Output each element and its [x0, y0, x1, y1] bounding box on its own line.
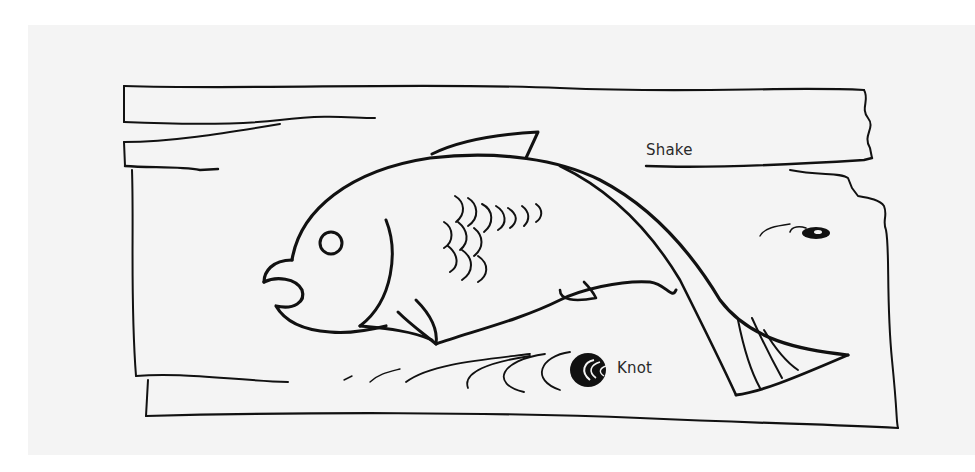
fish-back — [292, 155, 848, 355]
plank-top-right-edge — [864, 90, 872, 158]
pectoral-fin — [398, 300, 436, 344]
pelvic-fin — [560, 282, 596, 300]
knot-icon — [570, 353, 606, 387]
plank-right-edge — [790, 170, 898, 428]
wood-grain — [344, 352, 570, 392]
plank-crack — [125, 166, 218, 170]
plank-lower-split — [136, 375, 288, 382]
plank-left-edge — [132, 170, 136, 376]
fish-scales — [444, 196, 541, 282]
shake-label: Shake — [646, 141, 693, 159]
plank-top-edge — [124, 86, 864, 91]
fish-belly — [436, 282, 676, 344]
fish-eye — [320, 232, 342, 254]
plank-split-line — [124, 117, 375, 124]
plank-second-board-edge — [124, 124, 280, 142]
fish-mouth — [264, 279, 386, 333]
fish-on-plank-illustration — [0, 0, 975, 472]
plank-left-end-middle — [124, 142, 125, 166]
shake-line — [646, 158, 872, 167]
plank-left-end-bottom — [146, 380, 148, 416]
knot-label: Knot — [617, 359, 652, 377]
small-knot-icon — [760, 224, 830, 239]
gill-line — [360, 220, 392, 326]
plank-bottom-edge — [146, 413, 898, 428]
